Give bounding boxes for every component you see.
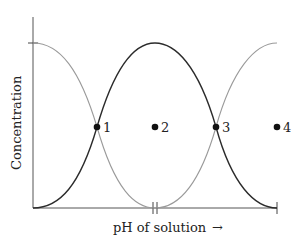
- point-4-label: 4: [283, 120, 291, 135]
- point-2-label: 2: [161, 120, 169, 135]
- point-2-marker: [152, 124, 159, 131]
- point-4-marker: [274, 124, 281, 131]
- point-3-marker: [213, 124, 220, 131]
- point-1-marker: [94, 124, 101, 131]
- x-axis-label: pH of solution: [113, 220, 207, 235]
- point-1-label: 1: [103, 120, 111, 135]
- concentration-ph-chart: 1 2 3 4 pH of solution → Concentration: [0, 0, 305, 240]
- point-3-label: 3: [222, 120, 230, 135]
- y-axis-label: Concentration: [9, 75, 24, 170]
- x-axis-arrow: →: [212, 220, 223, 235]
